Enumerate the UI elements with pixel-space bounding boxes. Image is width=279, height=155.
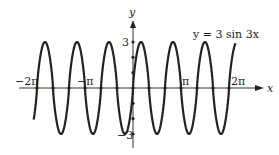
y-axis-arrow-icon — [130, 20, 136, 28]
x-axis-arrow-icon — [255, 85, 264, 91]
x-axis-label: x — [267, 82, 274, 95]
tick-label-neg-2pi: −2π — [15, 75, 38, 88]
tick-label-neg-pi: −π — [77, 75, 93, 88]
tick-label-pi: π — [182, 75, 189, 88]
equation-label: y = 3 sin 3x — [192, 28, 260, 41]
tick-label-pos3: 3 — [122, 36, 129, 49]
y-axis-label: y — [128, 6, 136, 19]
sine-graph: y x y = 3 sin 3x −2π −π π 2π 3 −3 — [0, 0, 279, 155]
tick-label-neg3: −3 — [117, 129, 133, 142]
tick-label-2pi: 2π — [231, 75, 245, 88]
